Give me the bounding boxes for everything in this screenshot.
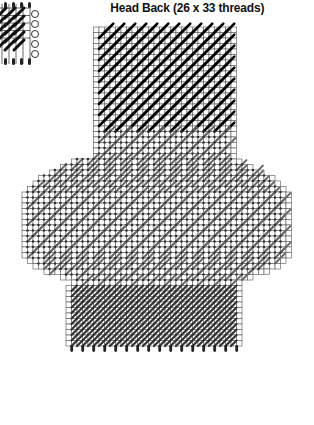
- legend-swatch: [0, 2, 39, 65]
- stitch-grid: [22, 24, 292, 352]
- needlepoint-chart: [0, 0, 314, 425]
